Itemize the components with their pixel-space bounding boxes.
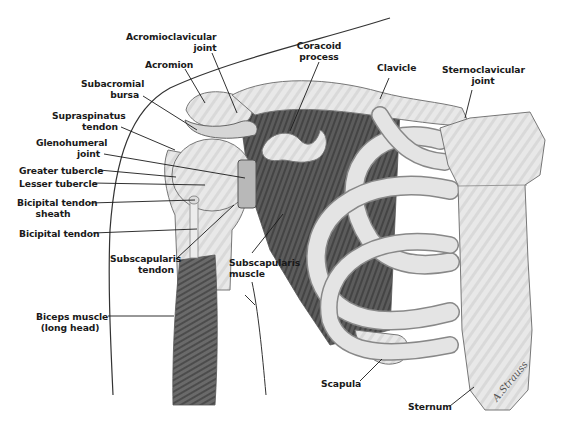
label-greater-tubercle: Greater tubercle [19, 165, 103, 176]
label-acromioclavicular-joint: Acromioclavicular joint [126, 31, 217, 53]
label-bicipital-tendon: Bicipital tendon [19, 228, 99, 239]
label-line: Coracoid [294, 40, 344, 51]
label-line: Acromioclavicular [126, 31, 217, 42]
label-glenohumeral-joint: Glenohumeral joint [36, 137, 100, 159]
label-coracoid-process: Coracoid process [294, 40, 344, 62]
label-line: (long head) [36, 322, 104, 333]
label-scapula: Scapula [321, 378, 361, 389]
label-subscapularis-muscle: Subscapularis muscle [229, 257, 300, 279]
label-line: Supraspinatus [52, 110, 118, 121]
label-line: sheath [17, 208, 89, 219]
label-clavicle: Clavicle [377, 62, 416, 73]
label-line: bursa [81, 89, 139, 100]
label-sternum: Sternum [408, 401, 452, 412]
label-line: joint [126, 42, 217, 53]
shoulder-anatomy-diagram: A.Strauss Acromioclavicular joint Acromi… [0, 0, 567, 427]
label-supraspinatus-tendon: Supraspinatus tendon [52, 110, 118, 132]
label-line: Subacromial [81, 78, 139, 89]
glenohumeral-joint-shape [238, 160, 256, 208]
label-line: tendon [52, 121, 118, 132]
label-bicipital-tendon-sheath: Bicipital tendon sheath [17, 197, 89, 219]
label-line: Sternoclavicular [442, 64, 524, 75]
label-line: Subscapularis [110, 253, 174, 264]
label-line: joint [442, 75, 524, 86]
torso-side-outline [252, 282, 266, 395]
label-line: Biceps muscle [36, 311, 104, 322]
label-line: muscle [229, 268, 300, 279]
label-lesser-tubercle: Lesser tubercle [19, 178, 98, 189]
label-subacromial-bursa: Subacromial bursa [81, 78, 139, 100]
label-subscapularis-tendon: Subscapularis tendon [110, 253, 174, 275]
label-line: Bicipital tendon [17, 197, 89, 208]
label-biceps-muscle: Biceps muscle (long head) [36, 311, 104, 333]
label-line: Subscapularis [229, 257, 300, 268]
label-line: process [294, 51, 344, 62]
label-acromion: Acromion [145, 59, 193, 70]
label-line: joint [36, 148, 100, 159]
biceps-muscle-shape [173, 255, 217, 405]
label-line: Glenohumeral [36, 137, 100, 148]
label-sternoclavicular-joint: Sternoclavicular joint [442, 64, 524, 86]
label-line: tendon [110, 264, 174, 275]
